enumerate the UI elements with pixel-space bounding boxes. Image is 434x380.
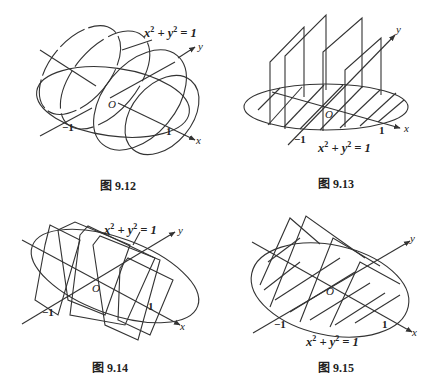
fig-9-12-tick-neg-one: −1: [62, 121, 74, 133]
fig-9-15-tick-one: 1: [382, 318, 388, 330]
fig-9-13-origin-label: O: [325, 108, 333, 120]
fig-9-12-x-axis-label: x: [196, 134, 201, 146]
triangular-planes: [260, 216, 400, 327]
fig-9-13-x-axis-label: x: [404, 122, 409, 134]
fig-9-14-x-axis-label: x: [180, 320, 185, 332]
fig-9-13-equation: x2 + y2 = 1: [318, 140, 371, 156]
fig-9-12-equation: x2 + y2 = 1: [144, 25, 197, 41]
fig-9-12-caption: 图 9.12: [100, 176, 136, 194]
x-axis: [272, 92, 400, 128]
fig-9-13-caption: 图 9.13: [318, 174, 354, 192]
hatching: [264, 238, 400, 325]
x-axis-back: [40, 50, 96, 86]
equation-leader: [122, 40, 152, 50]
fig-9-13-y-axis-label: y: [396, 23, 401, 35]
fig-9-15-tick-neg-one: −1: [274, 318, 286, 330]
fig-9-13-tick-one: 1: [379, 124, 385, 136]
fig-9-15-x-axis-label: x: [412, 326, 417, 338]
fig-9-14-tick-neg-one: −1: [42, 306, 54, 318]
fig-9-14-tick-one: 1: [148, 300, 154, 312]
fig-9-14-equation: x2 + y2 = 1: [104, 222, 157, 238]
fig-9-15-y-axis-label: y: [410, 232, 415, 244]
fig-9-14-y-axis-label: y: [178, 224, 183, 236]
fig-9-12-origin-label: O: [108, 98, 116, 110]
fig-9-13-tick-neg-one: −1: [294, 133, 306, 145]
fig-9-14-caption: 图 9.14: [92, 358, 128, 376]
fig-9-14-origin-label: O: [92, 282, 100, 294]
y-axis: [178, 47, 195, 58]
ring-4: [110, 61, 214, 169]
figures-canvas: [0, 0, 434, 380]
fig-9-15-caption: 图 9.15: [318, 358, 354, 376]
fig-9-12-tick-one: 1: [166, 125, 172, 137]
fig-9-12-y-axis-label: y: [198, 40, 203, 52]
fig-9-15-equation: x2 + y2 = 1: [306, 334, 359, 350]
fig-9-15-drawing: [242, 216, 417, 351]
fig-9-15-origin-label: O: [326, 285, 334, 297]
